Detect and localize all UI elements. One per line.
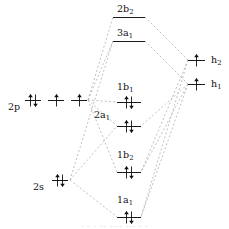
fragment-orbital-label-h1-subscript: 1	[217, 83, 221, 91]
molecular-orbital-label-1a1-text: 1a	[117, 194, 129, 205]
correlation-lines-layer	[0, 0, 229, 229]
fragment-orbital-label-h2: h2	[211, 55, 221, 65]
molecular-orbital-label-2b2: 2b2	[117, 4, 133, 14]
molecular-orbital-label-1b1-subscript: 1	[129, 86, 133, 94]
bottom-cropped-artifact: · · · ·· ···· ··· · ·	[0, 223, 229, 229]
atomic-orbital-label-2p: 2p	[8, 102, 20, 112]
molecular-orbital-label-3a1-text: 3a	[117, 27, 129, 38]
molecular-orbital-label-2a1: 2a1	[94, 110, 110, 120]
molecular-orbital-level-2b2	[113, 17, 145, 18]
fragment-orbital-label-h1: h1	[211, 79, 221, 89]
fragment-orbital-label-h2-subscript: 2	[217, 59, 221, 67]
electron-arrow-down-2a1	[129, 120, 134, 133]
correlation-line-2p-to-1b1	[88, 100, 117, 102]
electron-arrow-down-1b1	[129, 96, 134, 109]
correlation-line-h1-to-3a1	[145, 41, 188, 84]
molecular-orbital-label-2b2-text: 2b	[117, 3, 129, 14]
correlation-line-2p-to-2b2	[88, 17, 113, 100]
correlation-line-h2-to-2b2	[145, 17, 188, 60]
molecular-orbital-label-2b2-subscript: 2	[129, 8, 133, 16]
electron-arrow-down-1b2	[129, 166, 134, 179]
molecular-orbital-label-1b2-text: 1b	[117, 149, 129, 160]
correlation-line-2s-to-1a1	[70, 180, 117, 217]
molecular-orbital-label-1b1: 1b1	[117, 82, 133, 92]
correlation-line-h1-to-1b2	[141, 84, 188, 172]
correlation-line-2p-to-3a1	[88, 41, 113, 100]
molecular-orbital-label-1b2-subscript: 2	[129, 154, 133, 162]
atomic-orbital-label-2s: 2s	[33, 182, 44, 192]
electron-arrow-down-2s-1	[60, 174, 65, 187]
molecular-orbital-level-3a1	[113, 41, 145, 42]
atomic-orbital-label-2p-text: 2p	[8, 101, 20, 112]
electron-arrow-down-2p-1	[33, 94, 38, 107]
molecular-orbital-label-1a1: 1a1	[117, 195, 133, 205]
molecular-orbital-label-1a1-subscript: 1	[129, 199, 133, 207]
electron-arrow-up-h1	[194, 78, 199, 91]
correlation-line-h2-to-1a1	[141, 60, 188, 217]
atomic-orbital-label-2s-text: 2s	[33, 181, 44, 192]
electron-arrow-up-2p-2	[54, 94, 59, 107]
molecular-orbital-label-2a1-subscript: 1	[106, 114, 110, 122]
molecular-orbital-label-3a1-subscript: 1	[129, 32, 133, 40]
molecular-orbital-label-1b1-text: 1b	[117, 81, 129, 92]
correlation-line-2s-to-2a1	[70, 126, 117, 180]
correlation-line-h1-to-1a1	[141, 84, 188, 217]
mo-correlation-diagram: 2p2sh2h12b23a11b12a11b21a1 · · · ·· ····…	[0, 0, 229, 229]
electron-arrow-up-h2	[194, 54, 199, 67]
molecular-orbital-label-3a1: 3a1	[117, 28, 133, 38]
electron-arrow-up-2p-3	[77, 94, 82, 107]
bottom-artifact-text: · · · ·· ···· ··· · ·	[0, 223, 229, 229]
electron-arrow-down-1a1	[129, 211, 134, 224]
molecular-orbital-label-2a1-text: 2a	[94, 109, 106, 120]
molecular-orbital-label-1b2: 1b2	[117, 150, 133, 160]
